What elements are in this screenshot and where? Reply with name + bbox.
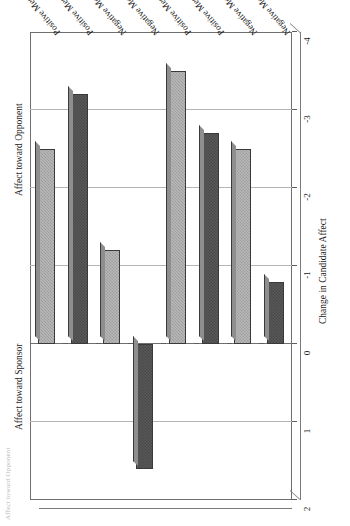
value-tick-label-2: 2	[302, 507, 312, 512]
bar-5[interactable]	[169, 71, 186, 344]
category-tick-2	[96, 344, 101, 345]
bar-7[interactable]	[234, 149, 251, 344]
bar-3[interactable]	[103, 250, 120, 344]
group-heading-sponsor: Affect toward Sponsor	[14, 344, 24, 430]
value-tick--1	[292, 265, 297, 266]
bar-chart-figure: Affect toward Opponent Affect toward Spo…	[0, 0, 350, 526]
value-axis-title: Change in Candidate Affect	[318, 218, 328, 324]
value-tick-1	[292, 421, 297, 422]
bar-2[interactable]	[71, 94, 88, 344]
value-tick-0	[292, 343, 297, 344]
value-tick--3	[292, 109, 297, 110]
gridline-1	[30, 421, 292, 422]
group-heading-opponent: Affect toward Opponent	[14, 103, 24, 196]
category-tick-6	[227, 344, 232, 345]
value-tick-label--2: -2	[302, 193, 312, 201]
plot-area	[30, 32, 292, 500]
rotated-figure-stage: Affect toward Opponent Affect toward Spo…	[0, 0, 350, 526]
plot-sidewall	[39, 499, 292, 509]
bar-4[interactable]	[136, 344, 153, 469]
value-tick-label-0: 0	[302, 351, 312, 356]
category-tick-4	[161, 344, 166, 345]
clipped-caption: Affect toward Opponent	[4, 447, 12, 520]
category-tick-1	[63, 344, 68, 345]
bar-1[interactable]	[38, 149, 55, 344]
value-tick-label-1: 1	[302, 429, 312, 434]
value-tick--2	[292, 187, 297, 188]
value-tick-label--4: -4	[302, 37, 312, 45]
value-tick-label--1: -1	[302, 271, 312, 279]
plot-floor	[290, 32, 301, 500]
category-tick-7	[259, 344, 264, 345]
value-tick--4	[292, 31, 297, 32]
value-tick-label--3: -3	[302, 115, 312, 123]
bar-8[interactable]	[267, 282, 284, 344]
value-tick-2	[292, 499, 297, 500]
bar-6[interactable]	[202, 133, 219, 344]
category-tick-5	[194, 344, 199, 345]
